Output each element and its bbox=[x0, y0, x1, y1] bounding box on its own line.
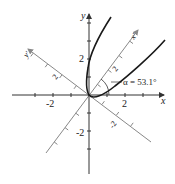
x-prime-axis-label: x' bbox=[128, 31, 139, 42]
x-prime-ticks bbox=[54, 41, 133, 144]
x-axis-label: x bbox=[160, 95, 166, 106]
y-tick-label-2: 2 bbox=[79, 53, 84, 64]
diagram-canvas: y x 2 -2 -2 2 x' y' 2 2 -2 α = 53.1° bbox=[0, 0, 175, 184]
angle-annotation: α = 53.1° bbox=[123, 77, 157, 87]
y-prime-tick-label-neg2: -2 bbox=[107, 119, 118, 130]
x-tick-label-neg2: -2 bbox=[46, 98, 54, 109]
x-tick-label-2: 2 bbox=[122, 98, 127, 109]
x-prime-axis bbox=[46, 30, 138, 153]
y-prime-tick-label-2: 2 bbox=[50, 73, 60, 82]
x-prime-tick-label-2: 2 bbox=[110, 65, 120, 74]
rotated-axes-diagram: y x 2 -2 -2 2 x' y' 2 2 -2 α = 53.1° bbox=[0, 0, 175, 184]
y-axis-label: y bbox=[80, 10, 86, 21]
y-tick-label-neg2: -2 bbox=[76, 127, 84, 138]
